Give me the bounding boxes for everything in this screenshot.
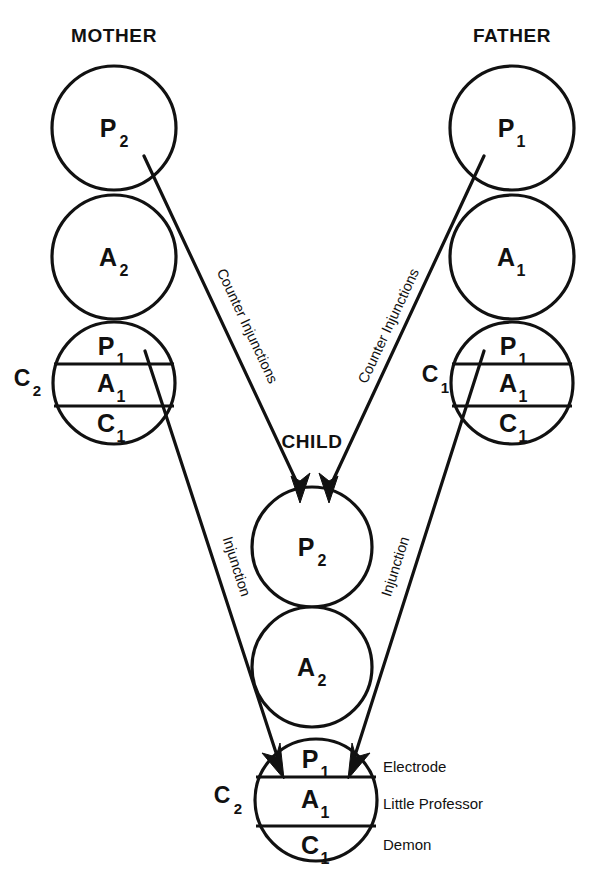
mother-seg-a1-letter: A — [97, 369, 115, 397]
mother-a2-subscript: 2 — [120, 262, 129, 279]
script-matrix-diagram: MOTHER FATHER CHILD P 2 A 2 P 1 A 1 C 1 … — [0, 0, 598, 894]
annotation-demon: Demon — [383, 836, 431, 853]
father-a1-subscript: 1 — [517, 262, 526, 279]
child-p2-letter: P — [298, 533, 315, 561]
label-injunction-left: Injunction — [220, 534, 254, 598]
mother-group-label-letter: C — [14, 365, 31, 391]
child-seg-p1-letter: P — [302, 745, 319, 773]
father-seg-c1-subscript: 1 — [519, 428, 528, 445]
heading-father: FATHER — [473, 25, 551, 46]
father-p1-letter: P — [498, 114, 515, 142]
mother-a2-letter: A — [99, 243, 117, 271]
mother-seg-c1-letter: C — [97, 409, 115, 437]
child-group-label-letter: C — [214, 782, 231, 808]
child-seg-c1-subscript: 1 — [321, 850, 330, 867]
line-counter-injunction-father — [329, 156, 484, 489]
father-seg-p1-subscript: 1 — [519, 351, 528, 368]
heading-mother: MOTHER — [71, 25, 157, 46]
mother-group-label-subscript: 2 — [33, 382, 41, 399]
annotation-electrode: Electrode — [383, 758, 446, 775]
mother-seg-a1-subscript: 1 — [117, 388, 126, 405]
child-a2-subscript: 2 — [318, 672, 327, 689]
mother-p2-letter: P — [100, 114, 117, 142]
child-seg-p1-subscript: 1 — [321, 764, 330, 781]
father-seg-a1-subscript: 1 — [519, 388, 528, 405]
mother-seg-p1-subscript: 1 — [117, 351, 126, 368]
father-a1-letter: A — [497, 243, 515, 271]
mother-p2-subscript: 2 — [120, 133, 129, 150]
line-counter-injunction-mother — [144, 156, 300, 489]
child-a2-letter: A — [297, 653, 315, 681]
father-seg-c1-letter: C — [499, 409, 517, 437]
child-seg-c1-letter: C — [301, 831, 319, 859]
father-seg-p1-letter: P — [500, 332, 517, 360]
label-counter-injunctions-right: Counter Injunctions — [355, 266, 422, 386]
mother-seg-c1-subscript: 1 — [117, 428, 126, 445]
child-group-label-subscript: 2 — [234, 800, 242, 817]
mother-seg-p1-letter: P — [98, 332, 115, 360]
child-seg-a1-letter: A — [301, 785, 319, 813]
father-p1-subscript: 1 — [517, 133, 526, 150]
annotation-little-professor: Little Professor — [383, 795, 483, 812]
child-seg-a1-subscript: 1 — [321, 804, 330, 821]
child-p2-subscript: 2 — [318, 552, 327, 569]
father-seg-a1-letter: A — [499, 369, 517, 397]
heading-child: CHILD — [281, 431, 342, 452]
father-group-label-subscript: 1 — [441, 379, 449, 396]
father-group-label-letter: C — [422, 361, 439, 387]
